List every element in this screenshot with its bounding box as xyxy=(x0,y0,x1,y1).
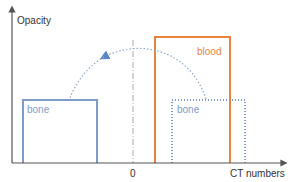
mirror-arrow-tail xyxy=(70,57,104,98)
blood-label: blood xyxy=(197,46,221,58)
bone-label: bone xyxy=(27,104,49,116)
opacity-transfer-diagram xyxy=(0,0,298,182)
y-axis-label: Opacity xyxy=(17,15,51,27)
zero-label: 0 xyxy=(130,168,136,180)
bone-mirrored-label: bone xyxy=(177,104,199,116)
x-axis-label: CT numbers xyxy=(230,168,285,180)
